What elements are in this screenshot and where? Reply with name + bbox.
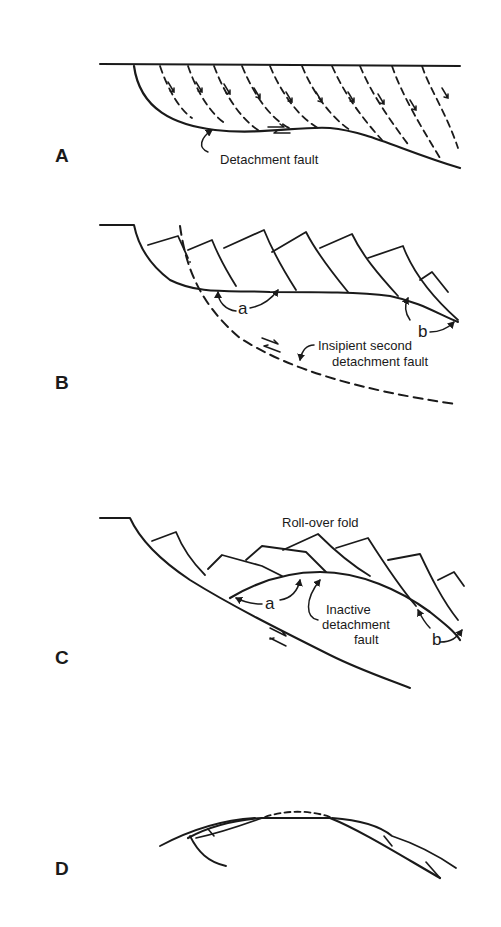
panel-d-drawing: [160, 812, 456, 878]
panel-label-a: A: [55, 145, 69, 167]
panel-c-drawing: [100, 518, 464, 688]
inactive-label-line1: Inactive: [326, 602, 371, 617]
roll-over-fold-label: Roll-over fold: [282, 515, 359, 530]
incipient-fault-label-line1: Insipient second: [318, 338, 412, 353]
panel-b-drawing: [100, 225, 458, 404]
label-b: b: [418, 322, 427, 342]
dashed-listric-faults: [160, 66, 458, 158]
inactive-label-line2: detachment: [322, 617, 390, 632]
inactive-label-line3: fault: [354, 632, 379, 647]
label-a: a: [265, 594, 274, 614]
shear-arrows: [168, 82, 448, 110]
label-a: a: [238, 299, 247, 319]
ground-surface: [100, 64, 460, 66]
label-b: b: [432, 630, 441, 650]
detachment-fault-leader: [202, 130, 212, 152]
panel-label-d: D: [55, 858, 69, 880]
detachment-fault-label: Detachment fault: [220, 152, 318, 167]
diagram-canvas: [0, 0, 501, 927]
panel-label-b: B: [55, 372, 69, 394]
panel-label-c: C: [55, 647, 69, 669]
incipient-fault-label-line2: detachment fault: [332, 354, 428, 369]
